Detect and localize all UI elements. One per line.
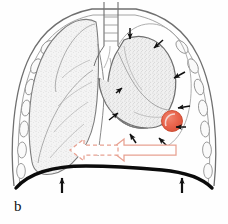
panel-label: b (14, 198, 22, 215)
tumour-nodule (162, 111, 183, 132)
chest-illustration (0, 0, 228, 224)
diaphragm-elevation-arrows (62, 178, 182, 193)
collapse-arrow-right-mid (178, 106, 190, 108)
solid-shift-arrow (110, 139, 176, 161)
figure-panel: b (0, 0, 228, 224)
collapse-arrow-bottom (130, 134, 136, 143)
